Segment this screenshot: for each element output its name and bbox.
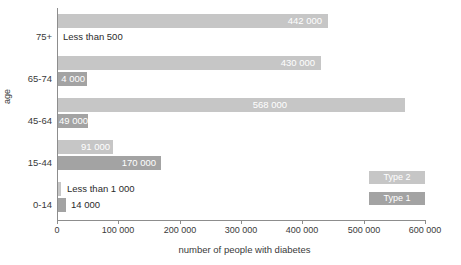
y-tick-label-75plus: 75+ [18,31,52,42]
x-tick-1 [118,220,119,224]
y-tick-label-65-74: 65-74 [12,73,52,84]
bar-value-65-74-type2: 430 000 [281,58,315,68]
bar-value-75plus-type2: 442 000 [288,16,322,26]
bar-45-64-type1: 49 000 [57,114,88,128]
x-tick-3 [241,220,242,224]
y-tick-label-45-64: 45-64 [12,115,52,126]
x-axis-title: number of people with diabetes [0,244,461,255]
x-tick-5 [364,220,365,224]
bar-65-74-type2: 430 000 [57,56,321,70]
y-tick-label-15-44: 15-44 [12,157,52,168]
plot-area: 442 000 Less than 500 430 000 4 000 568 … [57,8,425,220]
y-axis-title: age [2,89,12,104]
x-tick-label-3: 300 000 [225,225,258,235]
bar-value-15-44-type2: 91 000 [81,142,110,152]
bar-value-45-64-type1: 49 000 [59,116,88,126]
bar-45-64-type2: 568 000 [57,98,405,112]
x-tick-2 [180,220,181,224]
bar-value-65-74-type1: 4 000 [61,74,85,84]
x-tick-label-0: 0 [54,225,59,235]
legend-item-type1[interactable]: Type 1 [369,192,425,205]
x-tick-label-5: 500 000 [348,225,381,235]
bar-value-0-14-type1: 14 000 [71,200,100,210]
bar-75plus-type2: 442 000 [57,14,328,28]
y-tick-label-0-14: 0-14 [12,199,52,210]
y-axis-line [57,8,58,220]
x-tick-label-2: 200 000 [164,225,197,235]
bar-15-44-type2: 91 000 [57,140,113,154]
bar-15-44-type1: 170 000 [57,156,161,170]
bar-value-75plus-type1: Less than 500 [63,32,123,42]
legend-item-type2[interactable]: Type 2 [369,171,425,184]
x-axis-title-text: number of people with diabetes [178,244,310,255]
bar-0-14-type1: 14 000 [57,198,66,212]
x-tick-0 [57,220,58,224]
x-tick-label-1: 100 000 [102,225,135,235]
bar-65-74-type1: 4 000 [57,72,87,86]
bar-value-45-64-type2: 568 000 [253,100,287,110]
bar-value-15-44-type1: 170 000 [122,158,156,168]
diabetes-bar-chart: age 75+ 65-74 45-64 15-44 0-14 442 000 L… [0,0,461,265]
x-tick-label-4: 400 000 [286,225,319,235]
x-tick-4 [302,220,303,224]
bar-value-0-14-type2: Less than 1 000 [67,184,135,194]
x-tick-6 [425,220,426,224]
x-tick-label-6: 600 000 [409,225,442,235]
